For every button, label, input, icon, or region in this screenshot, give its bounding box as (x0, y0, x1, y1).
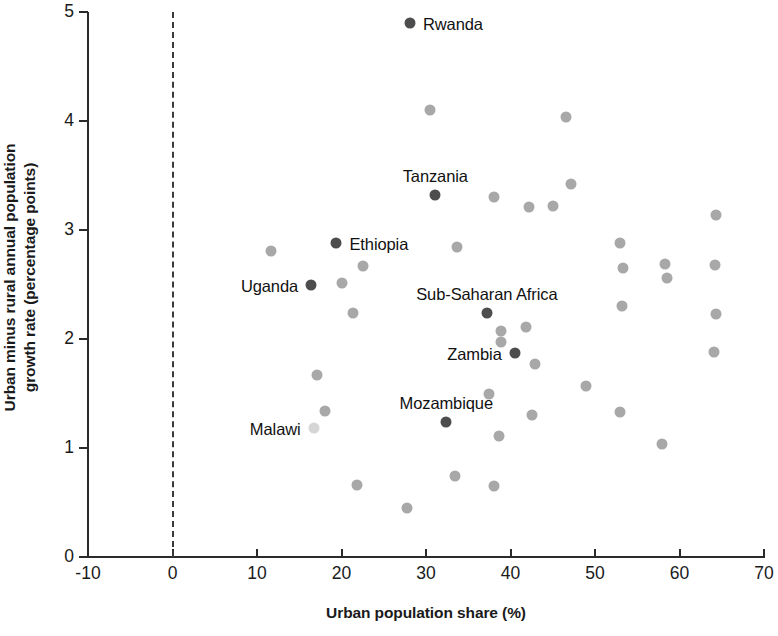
data-point (710, 308, 721, 319)
data-point (615, 238, 626, 249)
x-tick-mark (763, 549, 765, 558)
data-point-label-malawi: Malawi (250, 420, 301, 439)
y-tick-label: 1 (48, 437, 74, 458)
data-point (311, 369, 322, 380)
x-tick-label: 30 (396, 563, 456, 584)
data-point (493, 431, 504, 442)
data-point-zambia (509, 348, 520, 359)
data-point (351, 480, 362, 491)
x-tick-mark (341, 549, 343, 558)
y-tick-mark (79, 338, 88, 340)
data-point (614, 407, 625, 418)
data-point (452, 242, 463, 253)
data-point (580, 380, 591, 391)
data-point-label-ethiopia: Ethiopia (349, 235, 408, 254)
x-tick-label: 20 (312, 563, 372, 584)
x-tick-mark (594, 549, 596, 558)
y-tick-label: 5 (48, 1, 74, 22)
data-point (617, 301, 628, 312)
data-point-malawi (308, 423, 319, 434)
data-point (709, 347, 720, 358)
data-point (617, 263, 628, 274)
y-tick-mark (79, 120, 88, 122)
data-point (449, 471, 460, 482)
zero-reference-dashed-line (172, 12, 174, 557)
y-tick-mark (79, 447, 88, 449)
y-axis-title-line-2: growth rate (percentage points) (20, 0, 40, 555)
data-point (530, 359, 541, 370)
data-point (489, 192, 500, 203)
x-tick-mark (87, 549, 89, 558)
y-tick-mark (79, 11, 88, 13)
data-point-label-mozambique: Mozambique (400, 394, 493, 413)
data-point-tanzania (430, 190, 441, 201)
x-tick-mark (679, 549, 681, 558)
x-axis-title: Urban population share (%) (88, 604, 764, 622)
x-tick-mark (510, 549, 512, 558)
x-tick-label: 40 (481, 563, 541, 584)
data-point (710, 209, 721, 220)
data-point (336, 278, 347, 289)
x-tick-label: 10 (227, 563, 287, 584)
x-tick-mark (425, 549, 427, 558)
x-tick-label: 0 (143, 563, 203, 584)
y-axis-title: Urban minus rural annual population grow… (0, 0, 60, 560)
data-point (526, 410, 537, 421)
data-point (496, 326, 507, 337)
data-point (661, 272, 672, 283)
data-point (425, 105, 436, 116)
x-tick-label: 60 (650, 563, 710, 584)
data-point (561, 111, 572, 122)
data-point (656, 438, 667, 449)
y-axis-title-line-1: Urban minus rural annual population (0, 0, 20, 555)
data-point (265, 245, 276, 256)
data-point-rwanda (404, 17, 415, 28)
y-tick-label: 2 (48, 328, 74, 349)
data-point (709, 259, 720, 270)
data-point (660, 258, 671, 269)
data-point-label-uganda: Uganda (241, 276, 298, 295)
data-point-mozambique (441, 416, 452, 427)
data-point (524, 202, 535, 213)
data-point (358, 260, 369, 271)
data-point-label-rwanda: Rwanda (423, 14, 483, 33)
x-tick-label: -10 (58, 563, 118, 584)
x-tick-label: 50 (565, 563, 625, 584)
data-point (566, 179, 577, 190)
y-tick-label: 4 (48, 110, 74, 131)
data-point (319, 405, 330, 416)
data-point (402, 502, 413, 513)
y-tick-label: 3 (48, 219, 74, 240)
data-point-label-sub-saharan-africa: Sub-Saharan Africa (416, 285, 557, 304)
data-point-uganda (306, 279, 317, 290)
data-point-label-tanzania: Tanzania (403, 167, 468, 186)
data-point (489, 481, 500, 492)
data-point-sub-saharan-africa (481, 307, 492, 318)
x-tick-mark (256, 549, 258, 558)
data-point-ethiopia (331, 238, 342, 249)
data-point (348, 307, 359, 318)
scatter-chart-figure: Urban minus rural annual population grow… (0, 0, 778, 636)
x-tick-label: 70 (734, 563, 778, 584)
data-point (547, 201, 558, 212)
y-axis-line (87, 12, 89, 558)
y-tick-mark (79, 229, 88, 231)
data-point-label-zambia: Zambia (447, 345, 501, 364)
data-point (520, 322, 531, 333)
